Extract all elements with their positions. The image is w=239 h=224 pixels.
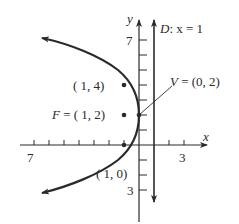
focus-coords: = ( 1, 2): [60, 107, 105, 122]
directrix-eq: : x = 1: [169, 21, 203, 36]
vertex-label: V = (0, 2): [170, 74, 220, 89]
focus-point: [122, 113, 127, 118]
point-neg1-4: [122, 83, 127, 88]
point-neg1-0: [122, 143, 127, 148]
y-axis: [139, 20, 147, 222]
x-tick-label-left: 7: [27, 150, 34, 165]
focus-label: F = ( 1, 2): [51, 107, 105, 122]
y-axis-label: y: [125, 11, 133, 26]
vertex-point: [137, 113, 142, 118]
y-tick-label-bottom: 3: [127, 183, 134, 198]
vertex-coords: = (0, 2): [178, 74, 220, 89]
x-axis: [20, 140, 207, 145]
point-neg1-4-label: ( 1, 4): [73, 78, 104, 93]
directrix-D: D: [159, 21, 170, 36]
point-neg1-0-label: ( 1, 0): [96, 166, 127, 181]
x-axis-label: x: [202, 129, 209, 144]
parabola-diagram: y x D: x = 1 7 3 7 3 V = (0, 2) F = ( 1,…: [0, 0, 239, 224]
directrix-label: D: x = 1: [159, 21, 203, 36]
x-tick-label-right: 3: [179, 150, 186, 165]
y-tick-label-top: 7: [126, 33, 133, 48]
